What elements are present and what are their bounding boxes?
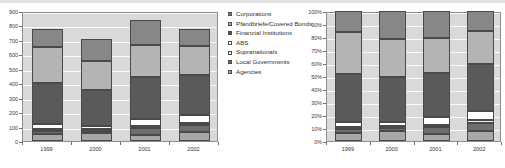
- y-tick-mark: [19, 26, 22, 27]
- bar-stack: [335, 11, 362, 141]
- bar-segment: [468, 120, 493, 122]
- y-axis-tick-label: 500: [9, 67, 18, 73]
- y-axis-tick-label: 0: [15, 139, 18, 145]
- legend-item-label: Corporations: [236, 10, 271, 19]
- y-tick-mark: [19, 41, 22, 42]
- chart-percentage-shares: 0%10%20%30%40%50%60%70%80%90%100%1999200…: [300, 8, 505, 160]
- bar-segment: [180, 132, 208, 141]
- bar-segment: [336, 11, 361, 32]
- legend-item-label: Local Governments: [236, 58, 290, 67]
- x-tick-mark: [22, 142, 23, 145]
- bar-segment: [380, 11, 405, 39]
- y-tick-mark: [323, 116, 326, 117]
- bar-segment: [180, 29, 208, 46]
- bar-segment: [380, 126, 405, 128]
- legend-swatch-icon: [228, 31, 232, 35]
- y-tick-mark: [19, 70, 22, 71]
- x-axis-tick-label: 1999: [342, 146, 354, 152]
- bar-segment: [468, 131, 493, 141]
- plot-area: [22, 12, 218, 142]
- y-axis-tick-label: 200: [9, 110, 18, 116]
- bar-segment: [380, 122, 405, 127]
- y-axis-tick-label: 60%: [311, 61, 322, 67]
- bar-stack: [179, 29, 209, 141]
- plot-area: [326, 12, 501, 142]
- y-tick-mark: [323, 103, 326, 104]
- y-tick-mark: [323, 25, 326, 26]
- y-tick-mark: [19, 128, 22, 129]
- bar-stack: [130, 20, 160, 141]
- bar-segment: [468, 11, 493, 31]
- legend-swatch-icon: [228, 12, 232, 16]
- bar-segment: [82, 131, 110, 133]
- x-tick-mark: [414, 142, 415, 145]
- x-axis-tick-label: 2002: [473, 146, 485, 152]
- bar-segment: [131, 77, 159, 118]
- bar-segment: [380, 77, 405, 122]
- y-tick-mark: [323, 77, 326, 78]
- legend-swatch-icon: [228, 70, 232, 74]
- y-axis-tick-label: 700: [9, 38, 18, 44]
- bar-segment: [33, 131, 61, 134]
- x-tick-mark: [370, 142, 371, 145]
- x-tick-mark: [501, 142, 502, 145]
- bar-segment: [180, 75, 208, 115]
- y-axis-tick-label: 0%: [314, 139, 322, 145]
- bar-segment: [82, 39, 110, 61]
- y-axis-tick-label: 70%: [311, 48, 322, 54]
- y-tick-mark: [19, 12, 22, 13]
- legend-swatch-icon: [228, 51, 232, 55]
- bar-stack: [423, 11, 450, 141]
- y-tick-mark: [323, 129, 326, 130]
- x-axis-tick-label: 2001: [138, 146, 150, 152]
- y-tick-mark: [323, 12, 326, 13]
- bar-segment: [424, 117, 449, 125]
- x-axis-tick-label: 2001: [429, 146, 441, 152]
- y-axis-tick-label: 300: [9, 96, 18, 102]
- y-tick-mark: [19, 55, 22, 56]
- bar-segment: [424, 127, 449, 134]
- bar-stack: [467, 11, 494, 141]
- bar-segment: [180, 115, 208, 123]
- bar-segment: [380, 128, 405, 131]
- bar-segment: [336, 127, 361, 129]
- x-tick-mark: [457, 142, 458, 145]
- y-tick-mark: [323, 90, 326, 91]
- bar-segment: [336, 74, 361, 122]
- bar-segment: [82, 90, 110, 125]
- bar-segment: [131, 126, 159, 128]
- bar-segment: [33, 129, 61, 131]
- bar-segment: [131, 135, 159, 142]
- y-axis-tick-label: 900: [9, 9, 18, 15]
- legend-swatch-icon: [228, 22, 232, 26]
- x-tick-mark: [71, 142, 72, 145]
- x-tick-mark: [326, 142, 327, 145]
- bar-segment: [180, 125, 208, 132]
- bar-segment: [380, 131, 405, 141]
- y-axis-tick-label: 100: [9, 125, 18, 131]
- legend-item-label: Agencies: [236, 68, 261, 77]
- bar-segment: [380, 39, 405, 77]
- y-tick-mark: [323, 64, 326, 65]
- y-axis-tick-label: 10%: [311, 126, 322, 132]
- figure-two-stacked-bar-charts: 0100200300400500600700800900199920002001…: [0, 0, 505, 168]
- bar-segment: [424, 125, 449, 127]
- y-axis-tick-label: 90%: [311, 22, 322, 28]
- legend-item-label: Supranationals: [236, 48, 277, 57]
- bar-stack: [32, 29, 62, 141]
- gridline: [23, 13, 217, 14]
- bar-segment: [131, 20, 159, 45]
- chart-absolute-volumes: 0100200300400500600700800900199920002001…: [0, 8, 222, 160]
- bar-segment: [33, 29, 61, 47]
- x-axis-tick-label: 1999: [40, 146, 52, 152]
- bar-segment: [180, 46, 208, 74]
- y-tick-mark: [323, 38, 326, 39]
- top-rule: [0, 0, 505, 3]
- y-tick-mark: [19, 99, 22, 100]
- bar-segment: [336, 133, 361, 141]
- bar-segment: [336, 129, 361, 132]
- y-axis-tick-label: 400: [9, 81, 18, 87]
- bar-segment: [180, 123, 208, 125]
- bar-segment: [424, 73, 449, 117]
- y-axis-tick-label: 50%: [311, 74, 322, 80]
